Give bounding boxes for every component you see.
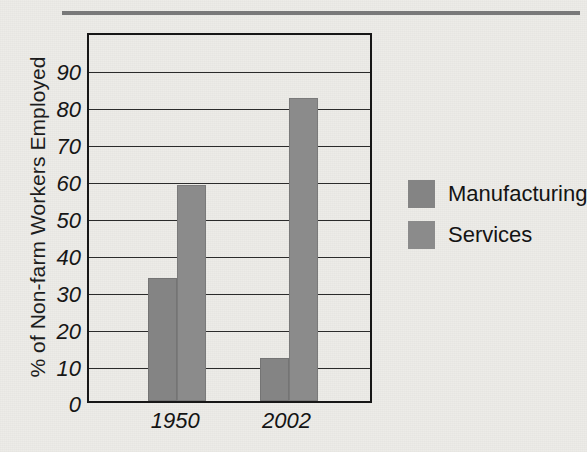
legend-item-services: Services <box>408 221 587 249</box>
bar-chart-figure: % of Non-farm Workers Employed 010203040… <box>0 0 587 452</box>
y-axis-tick-label: 10 <box>57 356 81 382</box>
legend-swatch-services <box>408 221 435 249</box>
x-axis-label-2002: 2002 <box>262 408 311 434</box>
chart-legend: ManufacturingServices <box>408 180 587 249</box>
y-axis-title: % of Non-farm Workers Employed <box>26 37 50 397</box>
y-axis-tick-label: 90 <box>57 60 81 86</box>
bars-group <box>89 35 370 401</box>
y-axis-tick-label: 0 <box>69 392 81 418</box>
bar-services-1950 <box>177 185 206 401</box>
legend-item-manufacturing: Manufacturing <box>408 180 587 208</box>
x-axis-label-1950: 1950 <box>151 408 200 434</box>
bar-services-2002 <box>289 98 318 401</box>
y-axis-tick-label: 40 <box>57 245 81 271</box>
y-axis-tick-label: 60 <box>57 171 81 197</box>
bar-manufacturing-2002 <box>260 358 289 401</box>
plot-area: 0102030405060708090 <box>87 33 372 403</box>
y-axis-tick-label: 80 <box>57 97 81 123</box>
legend-label-manufacturing: Manufacturing <box>448 181 587 207</box>
y-axis-tick-label: 70 <box>57 134 81 160</box>
legend-swatch-manufacturing <box>408 180 435 208</box>
y-axis-tick-label: 50 <box>57 208 81 234</box>
bar-manufacturing-1950 <box>148 278 177 401</box>
legend-label-services: Services <box>448 222 532 248</box>
y-axis-tick-label: 20 <box>57 319 81 345</box>
y-axis-tick-label: 30 <box>57 282 81 308</box>
